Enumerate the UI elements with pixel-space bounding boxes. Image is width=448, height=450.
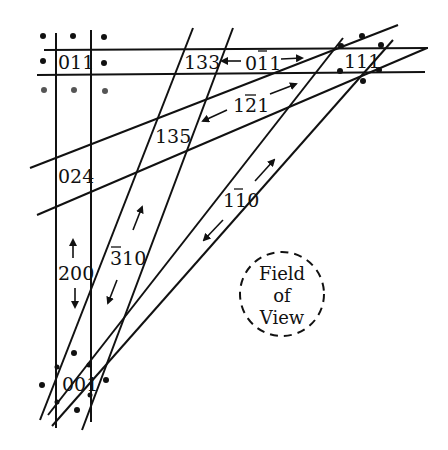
svg-text:011: 011 bbox=[245, 52, 281, 74]
kikuchi-map-diagram: 011 133 135 024 001 111 200 011 121 310 … bbox=[0, 0, 448, 450]
arrow-right-icon bbox=[281, 58, 302, 59]
band--310 bbox=[40, 28, 233, 430]
band-label--310: 310 bbox=[110, 247, 146, 269]
pole-label-111: 111 bbox=[344, 50, 380, 72]
band-label-1-21: 121 bbox=[233, 94, 269, 116]
pole-label-001: 001 bbox=[62, 373, 98, 395]
svg-text:of: of bbox=[273, 285, 292, 306]
pole-label-135: 135 bbox=[155, 125, 191, 147]
band-1-10 bbox=[48, 38, 393, 426]
arrow-up-right-icon bbox=[270, 84, 296, 94]
band-label-0-11: 011 bbox=[245, 51, 281, 74]
pole-label-011: 011 bbox=[58, 51, 94, 73]
svg-text:110: 110 bbox=[223, 189, 259, 211]
svg-text:310: 310 bbox=[110, 247, 146, 269]
band-label-200: 200 bbox=[58, 262, 94, 284]
pole-label-133: 133 bbox=[184, 51, 220, 73]
svg-text:Field: Field bbox=[259, 263, 305, 284]
svg-text:View: View bbox=[259, 307, 305, 328]
arrow-down-icon bbox=[108, 280, 117, 303]
svg-text:121: 121 bbox=[233, 94, 269, 116]
arrow-down-left-icon bbox=[203, 110, 227, 121]
field-of-view: Field of View bbox=[240, 252, 324, 336]
band-label-1-10: 110 bbox=[223, 189, 259, 211]
arrow-up-icon bbox=[133, 207, 142, 230]
pole-label-024: 024 bbox=[58, 165, 94, 187]
